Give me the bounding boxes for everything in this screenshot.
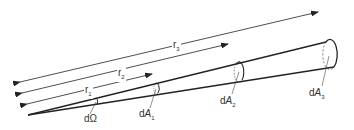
label-dA1: dA1: [138, 109, 156, 123]
cone-diagram: [0, 0, 354, 130]
label-d-omega: dΩ: [83, 114, 98, 124]
leader-lines: [90, 56, 329, 114]
label-r3: r3: [172, 40, 181, 54]
cone: [28, 39, 337, 115]
distance-arrow-r3: [20, 12, 318, 82]
label-dA3: dA3: [308, 88, 326, 102]
label-r1: r1: [84, 85, 93, 99]
label-dA2: dA2: [219, 96, 237, 110]
label-r2: r2: [117, 68, 126, 82]
